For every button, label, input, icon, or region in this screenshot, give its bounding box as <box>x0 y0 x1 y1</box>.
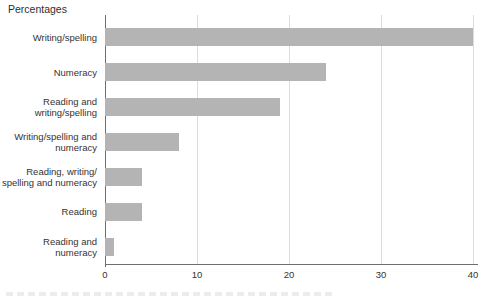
chart-row: Writing/spelling <box>0 20 473 55</box>
bar-chart: Percentages Writing/spellingNumeracyRead… <box>0 0 489 298</box>
x-tick-label: 30 <box>376 269 387 280</box>
bar-track <box>105 28 473 46</box>
chart-row: Reading andwriting/spelling <box>0 90 473 125</box>
bar <box>105 98 280 116</box>
bar <box>105 28 473 46</box>
cropped-caption-remnant <box>6 292 336 296</box>
bar-track <box>105 98 473 116</box>
bar <box>105 63 326 81</box>
x-tick-label: 40 <box>468 269 479 280</box>
category-label: Writing/spelling <box>0 32 105 43</box>
bar-track <box>105 238 473 256</box>
x-axis-line <box>105 264 478 265</box>
chart-row: Reading, writing/spelling and numeracy <box>0 159 473 194</box>
chart-title: Percentages <box>8 3 67 15</box>
bar <box>105 133 179 151</box>
category-label: Numeracy <box>0 67 105 78</box>
bar <box>105 168 142 186</box>
category-label: Reading <box>0 206 105 217</box>
category-label: Reading andwriting/spelling <box>0 96 105 118</box>
bar-track <box>105 63 473 81</box>
category-label: Reading, writing/spelling and numeracy <box>0 166 105 188</box>
bar <box>105 238 114 256</box>
chart-row: Reading and numeracy <box>0 229 473 264</box>
bar-track <box>105 133 473 151</box>
x-tick-label: 0 <box>102 269 107 280</box>
chart-row: Numeracy <box>0 55 473 90</box>
category-label: Reading and numeracy <box>0 236 105 258</box>
bar <box>105 203 142 221</box>
x-tick-label: 10 <box>192 269 203 280</box>
chart-row: Writing/spelling andnumeracy <box>0 125 473 160</box>
category-label: Writing/spelling andnumeracy <box>0 131 105 153</box>
x-tick-label: 20 <box>284 269 295 280</box>
bar-rows: Writing/spellingNumeracyReading andwriti… <box>0 20 473 264</box>
bar-track <box>105 203 473 221</box>
gridline <box>473 15 474 264</box>
bar-track <box>105 168 473 186</box>
chart-row: Reading <box>0 194 473 229</box>
